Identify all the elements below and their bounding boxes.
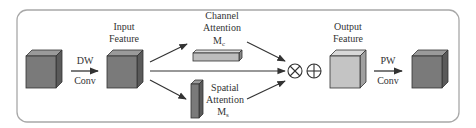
input-feature-cube — [107, 50, 143, 88]
spatial-attention-block — [191, 80, 203, 118]
spatial-attention-symbol: Ms — [217, 106, 229, 119]
pw-conv-label-line2: Conv — [377, 75, 399, 86]
input-feature-label-line1: Input — [113, 21, 134, 32]
multiply-operator-icon — [288, 64, 302, 78]
channel-attention-label-line1: Channel — [205, 10, 239, 21]
output-feature-label-line1: Output — [334, 21, 362, 32]
output-feature-label-line2: Feature — [333, 33, 364, 44]
dw-conv-label-line1: DW — [77, 55, 94, 66]
cbam-diagram: DW Conv Input Feature Channel Attention … — [0, 0, 476, 128]
output-feature-cube — [330, 50, 366, 88]
spatial-attention-label-line1: Spatial — [211, 82, 239, 93]
dw-conv-label-line2: Conv — [74, 75, 96, 86]
channel-attention-bar — [193, 50, 242, 61]
final-output-cube — [412, 50, 448, 88]
channel-attention-label-line2: Attention — [203, 22, 241, 33]
input-feature-label-line2: Feature — [109, 33, 140, 44]
spatial-attention-label-line2: Attention — [206, 94, 244, 105]
arrow-to-channel — [150, 44, 187, 62]
arrow-to-spatial — [150, 80, 186, 99]
input-cube — [26, 50, 62, 88]
add-operator-icon — [307, 64, 321, 78]
channel-attention-symbol: Mc — [213, 35, 225, 48]
arrow-spatial-to-multiply — [247, 81, 285, 99]
pw-conv-label-line1: PW — [381, 55, 397, 66]
arrow-channel-to-multiply — [247, 42, 285, 61]
